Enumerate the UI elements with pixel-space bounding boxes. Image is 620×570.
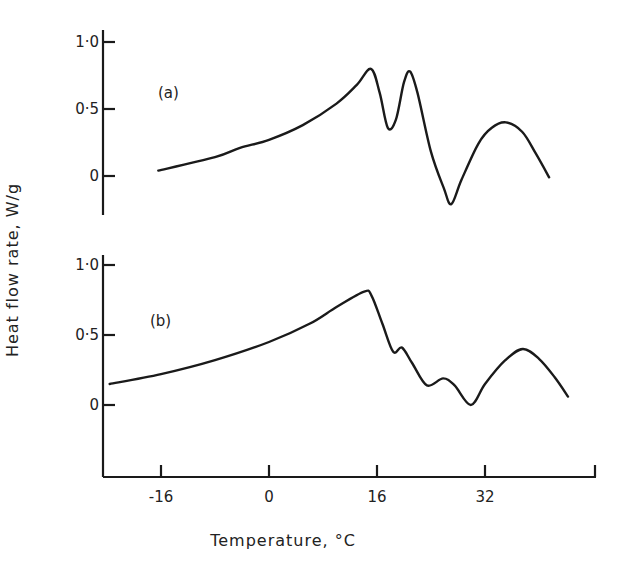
x-tick-label: 16 xyxy=(367,488,386,506)
ticks: 00·51·000·51·0-1601632 xyxy=(75,33,494,506)
panel-a-label: (a) xyxy=(158,84,179,102)
x-axis-label: Temperature, °C xyxy=(209,531,356,550)
y-tick-label: 0 xyxy=(89,167,99,185)
panel-b-label: (b) xyxy=(150,312,171,330)
y-tick-label: 1·0 xyxy=(75,33,99,51)
y-tick-label: 1·0 xyxy=(75,256,99,274)
x-tick-label: 32 xyxy=(475,488,494,506)
y-tick-label: 0·5 xyxy=(75,326,99,344)
curves xyxy=(110,69,568,405)
y-tick-label: 0 xyxy=(89,396,99,414)
y-axis-label: Heat flow rate, W/g xyxy=(3,183,22,357)
series-line-a xyxy=(158,69,549,205)
x-tick-label: -16 xyxy=(149,488,174,506)
y-tick-label: 0·5 xyxy=(75,100,99,118)
x-tick-label: 0 xyxy=(264,488,274,506)
dsc-chart: Heat flow rate, W/g Temperature, °C (a) … xyxy=(0,0,620,570)
series-line-b xyxy=(110,291,568,405)
